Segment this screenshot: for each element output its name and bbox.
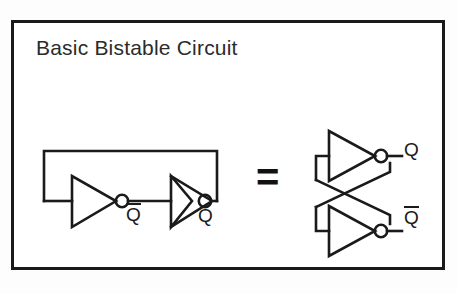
label-q-left-circuit: Q — [198, 206, 213, 225]
figure-root: Basic Bistable Circuit — [0, 0, 457, 293]
label-qbar-left-circuit: Q — [126, 203, 141, 224]
label-q-right-circuit: Q — [404, 140, 419, 159]
label-qbar-right-circuit: Q — [404, 206, 419, 227]
equivalence-equals-sign: = — [256, 157, 279, 197]
page-title: Basic Bistable Circuit — [36, 36, 238, 60]
